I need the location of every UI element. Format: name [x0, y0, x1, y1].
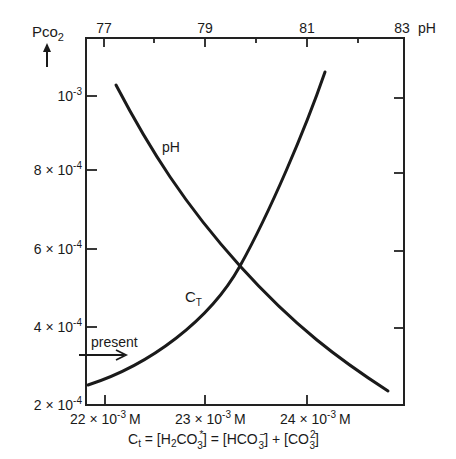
left-tick-label: 4 × 10-4 [34, 317, 83, 335]
right-axis-ticks [394, 98, 404, 328]
left-tick-label: 8 × 10-4 [34, 160, 83, 178]
left-tick-label: 10-3 [58, 86, 83, 104]
ph-curve [116, 85, 388, 391]
top-axis-ticks [104, 38, 358, 47]
top-tick-label: 81 [299, 20, 315, 36]
left-axis-ticks [86, 96, 97, 327]
bottom-tick-label: 24 × 10-3M [280, 409, 351, 427]
y-axis-title: Pco2 [32, 23, 64, 43]
chart-canvas: Pco2 77 79 81 83 pH 10-3 8 × 10-4 6 × 10… [0, 0, 456, 459]
top-tick-label: 77 [96, 20, 112, 36]
ph-curve-label: pH [162, 139, 180, 155]
top-tick-label: 83 [394, 20, 410, 36]
left-tick-label: 6 × 10-4 [34, 239, 83, 257]
top-axis-title: pH [418, 20, 436, 36]
top-tick-label: 79 [197, 20, 213, 36]
x-axis-formula: Ct = [H2CO*3] = [HCO−3] + [CO23] [128, 429, 319, 451]
y-axis-up-arrow [43, 43, 51, 67]
bottom-tick-label: 22 × 10-3M [70, 409, 141, 427]
ct-curve-label: CT [185, 288, 202, 308]
bottom-axis-ticks [105, 395, 307, 405]
present-label: present [91, 334, 138, 350]
bottom-tick-label: 23 × 10-3M [175, 409, 246, 427]
